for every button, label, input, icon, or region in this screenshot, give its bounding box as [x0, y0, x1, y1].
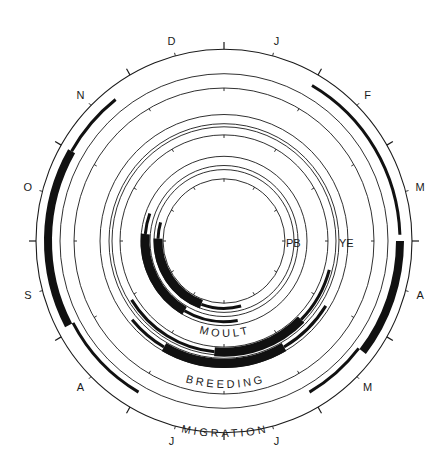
- phenology-bar: [363, 241, 400, 352]
- ring-tick: [172, 330, 174, 333]
- month-label: S: [24, 289, 31, 301]
- ring-tick: [311, 293, 314, 295]
- ring-tick: [194, 187, 196, 190]
- month-tick: [357, 377, 359, 379]
- month-tick: [406, 291, 409, 292]
- ring-tick: [351, 316, 354, 318]
- ring-label-breeding: BREEDING: [185, 373, 267, 390]
- month-tick: [387, 142, 393, 146]
- month-tick: [127, 407, 131, 413]
- ring-tick: [275, 149, 277, 152]
- month-tick: [127, 69, 131, 75]
- ring-tick: [134, 188, 137, 190]
- month-label: J: [274, 35, 280, 47]
- ring-tick: [134, 293, 137, 295]
- ring-label-migration: MIGRATION: [181, 422, 270, 439]
- ring-tick: [311, 188, 314, 190]
- ring-tick: [172, 149, 174, 152]
- month-tick: [318, 407, 322, 413]
- month-label: D: [168, 35, 176, 47]
- month-tick: [55, 142, 61, 146]
- month-label: M: [416, 181, 425, 193]
- ring-tick: [274, 210, 277, 212]
- phenology-bar: [158, 222, 161, 238]
- month-tick: [89, 103, 91, 105]
- month-tick: [55, 337, 61, 341]
- ring-tick: [351, 165, 354, 167]
- ring-circle: [150, 166, 298, 317]
- ring-tick: [274, 271, 277, 273]
- month-label: F: [364, 89, 371, 101]
- ring-tick: [149, 108, 151, 111]
- ring-tick: [298, 108, 300, 111]
- species-label-ye: YE: [339, 237, 354, 249]
- phenology-bar: [201, 304, 241, 308]
- ring-tick: [171, 210, 174, 212]
- phenology-bar: [310, 348, 359, 392]
- ring-tick: [298, 371, 300, 374]
- ring-circle: [163, 179, 285, 303]
- month-tick: [89, 377, 91, 379]
- species-label-pb: PB: [286, 237, 301, 249]
- month-label: M: [363, 381, 372, 393]
- cycle-svg: JFMAMJJASOND PB YE MOULT BREEDING MIGRAT…: [0, 0, 444, 471]
- ring-tick: [194, 292, 196, 295]
- month-label: J: [274, 435, 280, 447]
- month-tick: [387, 337, 393, 341]
- ring-tick: [94, 316, 97, 318]
- ring-tick: [171, 271, 174, 273]
- ring-tick: [94, 165, 97, 167]
- ring-tick: [253, 292, 255, 295]
- ring-tick: [275, 330, 277, 333]
- month-tick: [40, 291, 43, 292]
- phenology-bar: [312, 86, 400, 235]
- ring-circles: [36, 49, 412, 433]
- ring-tick: [149, 371, 151, 374]
- ring-tick: [253, 187, 255, 190]
- month-tick: [40, 191, 43, 192]
- month-label: A: [77, 381, 85, 393]
- month-tick: [357, 103, 359, 105]
- month-label: O: [24, 181, 33, 193]
- annual-cycle-diagram: JFMAMJJASOND PB YE MOULT BREEDING MIGRAT…: [0, 0, 444, 471]
- month-label: N: [77, 89, 85, 101]
- month-tick: [406, 191, 409, 192]
- ring-circle: [36, 49, 412, 433]
- phenology-bar: [145, 213, 150, 234]
- month-label: J: [169, 435, 175, 447]
- month-label: A: [416, 289, 424, 301]
- month-tick: [318, 69, 322, 75]
